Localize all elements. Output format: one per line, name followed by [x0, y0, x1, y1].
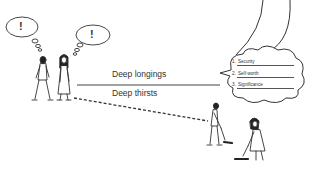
man-thought-bubble: [6, 17, 42, 51]
list-item-self-worth: Self-worth: [238, 71, 259, 76]
man-thought-exclamation: !: [19, 20, 23, 32]
list-item-security: Security: [238, 59, 255, 64]
woman-figure: [57, 55, 71, 101]
deep-thirsts-label: Deep thirsts: [112, 88, 157, 98]
list-underline-3: [237, 88, 294, 89]
dashed-path-line: [74, 98, 208, 121]
man-figure: [32, 56, 53, 100]
illustration-canvas: [0, 0, 310, 171]
list-item-number-3: 3.: [232, 82, 236, 87]
man-digging-figure: [207, 103, 232, 145]
list-item-number-1: 1.: [232, 59, 236, 64]
deep-longings-label: Deep longings: [112, 69, 166, 79]
woman-digging-figure: [235, 118, 265, 160]
list-underline-2: [237, 77, 294, 78]
list-underline-1: [237, 65, 294, 66]
woman-thought-exclamation: !: [90, 28, 94, 40]
list-item-number-2: 2.: [232, 71, 236, 76]
list-item-significance: Significance: [238, 82, 263, 87]
